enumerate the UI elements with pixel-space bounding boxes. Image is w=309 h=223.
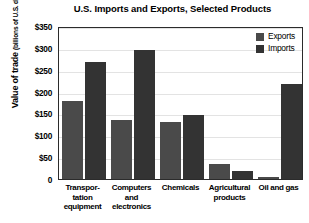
x-tick-label: Computersandelectronics: [104, 183, 159, 212]
legend-item-imports[interactable]: Imports: [256, 44, 295, 53]
plot-area: ExportsImports: [58, 27, 303, 180]
y-tick-label: $50: [39, 154, 52, 162]
bar-imports[interactable]: [183, 115, 204, 179]
bar-group: [206, 28, 255, 179]
x-tick-label: Agriculturalproducts: [202, 183, 257, 202]
bar-group: [157, 28, 206, 179]
bar-group: [59, 28, 108, 179]
bar-exports[interactable]: [258, 177, 279, 179]
y-tick-label: $200: [35, 89, 52, 97]
bar-exports[interactable]: [209, 164, 230, 179]
x-tick-label: Chemicals: [153, 183, 208, 193]
legend: ExportsImports: [256, 32, 295, 53]
legend-swatch-icon: [256, 33, 264, 41]
x-tick-label: Transpor-tationequipment: [55, 183, 110, 212]
bar-imports[interactable]: [85, 62, 106, 179]
x-axis-tick-labels: Transpor-tationequipmentComputersandelec…: [58, 183, 303, 221]
bar-exports[interactable]: [111, 120, 132, 179]
legend-label: Imports: [268, 44, 295, 53]
legend-item-exports[interactable]: Exports: [256, 32, 295, 41]
bar-exports[interactable]: [62, 101, 83, 179]
bar-imports[interactable]: [232, 171, 253, 179]
y-tick-label: 0: [48, 176, 52, 184]
legend-label: Exports: [268, 32, 295, 41]
chart-container: U.S. Imports and Exports, Selected Produ…: [0, 0, 309, 223]
y-tick-label: $300: [35, 45, 52, 53]
bar-group: [108, 28, 157, 179]
bar-imports[interactable]: [134, 50, 155, 179]
y-tick-label: $350: [35, 23, 52, 31]
bar-imports[interactable]: [281, 84, 302, 179]
y-tick-label: $150: [35, 110, 52, 118]
y-tick-label: $250: [35, 67, 52, 75]
y-axis-tick-labels: $350$300$250$200$150$100$500: [0, 27, 55, 180]
chart-title: U.S. Imports and Exports, Selected Produ…: [40, 3, 305, 15]
y-tick-label: $100: [35, 132, 52, 140]
legend-swatch-icon: [256, 45, 264, 53]
x-tick-label: Oil and gas: [251, 183, 306, 193]
bar-exports[interactable]: [160, 122, 181, 179]
